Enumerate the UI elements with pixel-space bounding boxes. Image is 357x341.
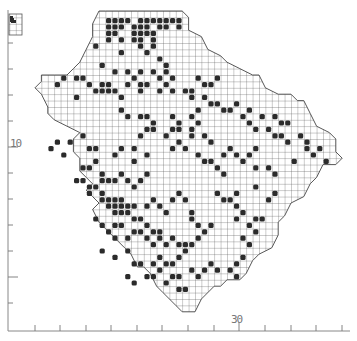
record-square [157,204,162,209]
record-square [208,261,213,266]
record-square [132,37,137,42]
record-square [106,18,111,23]
record-square [260,216,265,221]
record-square [119,95,124,100]
record-square [247,120,252,125]
record-square [285,140,290,145]
record-square [74,76,79,81]
inset-map [9,14,22,35]
record-square [138,178,143,183]
record-square [119,108,124,113]
record-square [144,82,149,87]
record-square [138,37,143,42]
record-square [157,268,162,273]
record-square [151,127,156,132]
x-axis-label: 30 [231,313,242,326]
record-square [125,178,130,183]
record-square [234,152,239,157]
record-square [253,229,258,234]
record-square [157,24,162,29]
record-square [106,37,111,42]
record-square [93,159,98,164]
record-square [170,261,175,266]
record-square [176,242,181,247]
record-square [157,76,162,81]
record-square [164,261,169,266]
record-square [125,210,130,215]
record-square [132,31,137,36]
record-square [93,146,98,151]
x-axis-ticks [35,322,342,331]
record-square [100,191,105,196]
record-square [164,82,169,87]
record-square [228,197,233,202]
record-square [183,88,188,93]
record-square [272,133,277,138]
record-square [112,236,117,241]
record-square [100,248,105,253]
record-square [164,69,169,74]
record-square [112,255,117,260]
record-square [151,197,156,202]
record-square [183,287,188,292]
record-square [272,191,277,196]
record-square [87,184,92,189]
record-square [119,50,124,55]
record-square [61,76,66,81]
record-square [272,172,277,177]
record-square [100,63,105,68]
record-square [119,146,124,151]
record-square [240,236,245,241]
record-square [138,88,143,93]
record-square [112,223,117,228]
record-square [125,18,130,23]
record-square [196,223,201,228]
record-square [170,197,175,202]
record-square [93,44,98,49]
record-square [164,280,169,285]
record-square [253,165,258,170]
record-square [138,69,143,74]
record-square [119,204,124,209]
record-square [176,127,181,132]
record-square [55,82,60,87]
record-square [304,146,309,151]
record-square [125,236,130,241]
record-square [253,127,258,132]
record-square [164,24,169,29]
record-square [253,216,258,221]
record-square [266,127,271,132]
record-square [144,204,149,209]
record-square [189,268,194,273]
record-square [132,159,137,164]
record-square [119,37,124,42]
record-square [80,165,85,170]
record-square [119,197,124,202]
record-square [151,69,156,74]
record-square [234,191,239,196]
record-square [247,223,252,228]
y-axis-ticks [8,43,18,303]
record-square [151,120,156,125]
record-square [164,133,169,138]
record-square [164,63,169,68]
record-square [100,178,105,183]
record-square [176,120,181,125]
record-square [292,159,297,164]
record-square [106,204,111,209]
record-square [74,178,79,183]
record-square [164,210,169,215]
record-square [93,216,98,221]
record-square [138,18,143,23]
record-square [253,184,258,189]
record-square [260,114,265,119]
record-square [164,18,169,23]
record-square [170,274,175,279]
record-square [266,165,271,170]
record-square [112,24,117,29]
record-square [176,255,181,260]
record-square [151,261,156,266]
record-square [215,191,220,196]
record-square [112,88,117,93]
record-square [138,82,143,87]
